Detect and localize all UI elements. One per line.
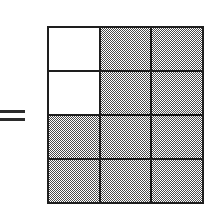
grid-cell-r1-c2 <box>101 28 151 70</box>
grid-cell-r4-c3 <box>152 160 202 202</box>
grid-figure <box>47 26 204 204</box>
grid-cell-r3-c3 <box>152 116 202 158</box>
grid-cell-r1-c1 <box>49 28 99 70</box>
grid-cell-r2-c3 <box>152 72 202 114</box>
equals-bar-bottom <box>0 118 25 121</box>
equals-bar-top <box>0 110 25 113</box>
grid-cell-r4-c1 <box>49 160 99 202</box>
equals-sign <box>0 108 25 124</box>
grid <box>47 26 204 204</box>
grid-cell-r2-c2 <box>101 72 151 114</box>
grid-cell-r1-c3 <box>152 28 202 70</box>
grid-cell-r4-c2 <box>101 160 151 202</box>
grid-cell-r2-c1 <box>49 72 99 114</box>
grid-cell-r3-c2 <box>101 116 151 158</box>
grid-cell-r3-c1 <box>49 116 99 158</box>
fraction-grid-figure <box>0 0 217 212</box>
